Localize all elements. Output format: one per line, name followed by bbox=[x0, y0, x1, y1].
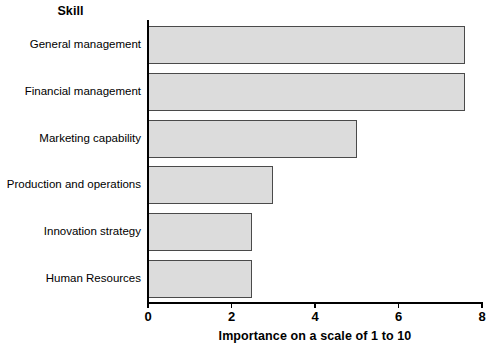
bar bbox=[148, 120, 357, 158]
bar-row bbox=[148, 26, 482, 64]
bar-row bbox=[148, 260, 482, 298]
category-label: Marketing capability bbox=[0, 132, 141, 145]
x-axis-tick-label: 0 bbox=[128, 309, 168, 324]
category-label-list: General managementFinancial managementMa… bbox=[0, 22, 141, 302]
x-axis-tick bbox=[147, 302, 149, 308]
x-axis-tick-label: 4 bbox=[295, 309, 335, 324]
x-axis-title: Importance on a scale of 1 to 10 bbox=[148, 329, 482, 343]
y-axis-line bbox=[147, 20, 149, 303]
bar bbox=[148, 166, 273, 204]
bar-row bbox=[148, 166, 482, 204]
category-label: Human Resources bbox=[0, 272, 141, 285]
category-axis-title: Skill bbox=[0, 4, 141, 18]
x-axis-tick bbox=[398, 302, 400, 308]
bar bbox=[148, 260, 252, 298]
bar-row bbox=[148, 120, 482, 158]
bar bbox=[148, 213, 252, 251]
bar bbox=[148, 26, 465, 64]
x-axis-tick-label: 8 bbox=[462, 309, 496, 324]
bar-chart: Skill General managementFinancial manage… bbox=[0, 0, 496, 356]
bar bbox=[148, 73, 465, 111]
x-axis-tick-label: 2 bbox=[212, 309, 252, 324]
category-label: Financial management bbox=[0, 85, 141, 98]
plot-area bbox=[148, 22, 482, 302]
bar-row bbox=[148, 73, 482, 111]
category-label: Innovation strategy bbox=[0, 225, 141, 238]
category-label: Production and operations bbox=[0, 178, 141, 191]
category-label: General management bbox=[0, 38, 141, 51]
bar-row bbox=[148, 213, 482, 251]
x-axis-tick bbox=[314, 302, 316, 308]
x-axis-tick bbox=[231, 302, 233, 308]
x-axis-tick-label: 6 bbox=[379, 309, 419, 324]
x-axis-tick bbox=[481, 302, 483, 308]
